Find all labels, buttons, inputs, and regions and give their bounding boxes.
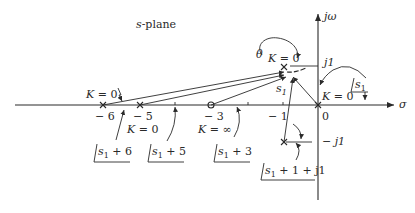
angle-label-s1: s1 xyxy=(351,78,368,93)
svg-text:s1 + 5: s1 + 5 xyxy=(152,145,186,160)
label-j1: j1 xyxy=(321,56,334,69)
vector-from-neg5 xyxy=(140,75,284,105)
svg-text:s1 + 3: s1 + 3 xyxy=(218,145,252,160)
s-plane-diagram: s-plane σ jω − 6 − 5 − 3 − 1 0 j1 − j1 s… xyxy=(0,0,415,213)
svg-text:s1: s1 xyxy=(355,78,366,93)
angle-arc-lower-pole-2 xyxy=(296,143,299,160)
plane-title-rest: -plane xyxy=(142,18,176,31)
vector-from-neg6 xyxy=(103,72,284,105)
real-axis-label: σ xyxy=(399,98,407,111)
angle-arrow-neg3 xyxy=(234,107,239,137)
k0-origin-label: K = 0 xyxy=(321,90,353,103)
root-locus-branch xyxy=(287,68,306,72)
theta-label: θ xyxy=(256,48,263,61)
label-neg1: − 1 xyxy=(268,110,288,123)
plane-title: s-plane xyxy=(136,18,176,31)
angle-arrow-neg5 xyxy=(167,107,175,141)
label-neg3: − 3 xyxy=(204,110,224,123)
label-neg-j1: − j1 xyxy=(322,135,345,148)
angle-arrow-neg6 xyxy=(116,110,124,140)
s1-label: s1 xyxy=(276,82,287,97)
angle-label-s1-plus-3: s1 + 3 xyxy=(214,144,252,162)
k0-left-arrow xyxy=(118,88,122,101)
imag-axis-label: jω xyxy=(321,10,336,23)
vector-from-origin xyxy=(293,77,318,105)
angle-label-s1-plus-5: s1 + 5 xyxy=(148,144,186,162)
k0-upper-label: K = 0 xyxy=(267,52,299,65)
k0-left-label: K = 0 xyxy=(85,88,117,101)
k0-neg5-label: K = 0 xyxy=(126,123,158,136)
label-origin: 0 xyxy=(322,110,329,123)
angle-arc-lower-pole-1 xyxy=(293,124,301,139)
vector-from-neg3 xyxy=(211,77,286,105)
angle-label-s1-plus-1-plus-j1: s1 + 1 + j1 xyxy=(261,163,326,180)
kinf-neg3-label: K = ∞ xyxy=(197,123,232,136)
svg-text:s1 + 1 + j1: s1 + 1 + j1 xyxy=(265,164,326,179)
angle-label-s1-plus-6: s1 + 6 xyxy=(94,144,132,162)
svg-text:s1 + 6: s1 + 6 xyxy=(98,145,132,160)
label-neg5: − 5 xyxy=(133,110,153,123)
label-neg6: − 6 xyxy=(95,110,115,123)
